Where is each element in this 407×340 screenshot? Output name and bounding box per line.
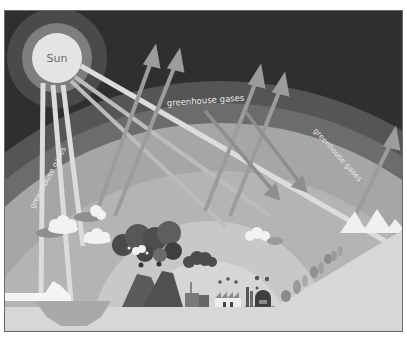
sun-label: Sun [47, 52, 68, 65]
greenhouse-diagram: Sun greenhouse gases greenhouse gases gr… [4, 10, 403, 332]
sun: Sun [7, 11, 107, 108]
diagram-canvas: Sun greenhouse gases greenhouse gases gr… [5, 11, 403, 332]
